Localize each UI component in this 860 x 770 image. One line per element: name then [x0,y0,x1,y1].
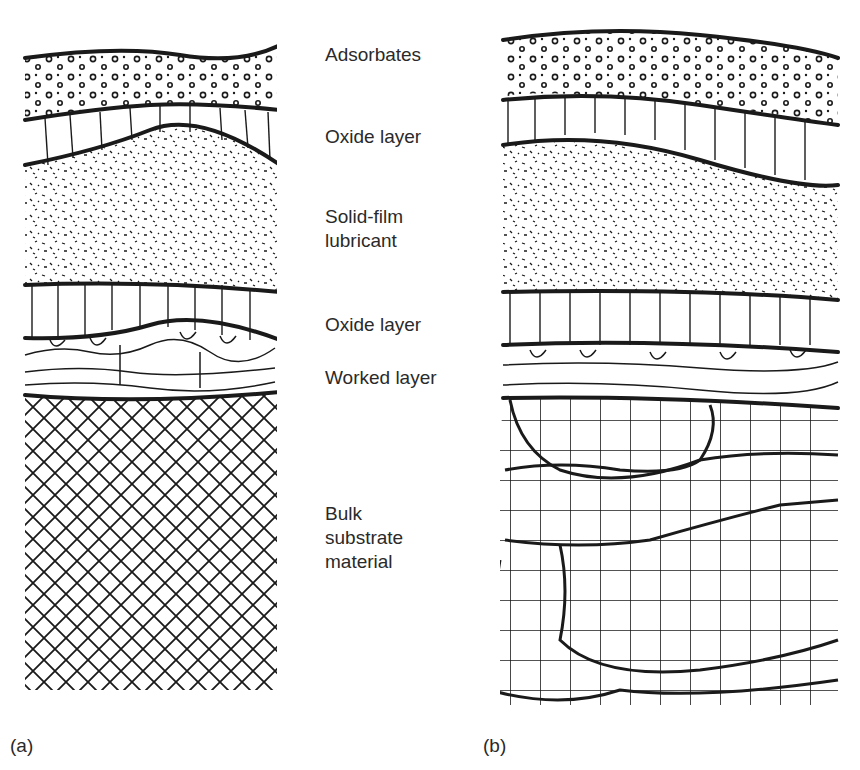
layer-label: Worked layer [325,367,437,389]
layer-label: Adsorbates [325,44,421,66]
layer-label: material [325,551,393,573]
layer-label: Oxide layer [325,126,421,148]
layer-label: Bulk [325,503,362,525]
panel-tag: (a) [10,735,33,757]
layer-label: substrate [325,527,403,549]
panel-tag: (b) [483,735,506,757]
layer-label: lubricant [325,230,397,252]
layer-label: Solid-film [325,206,403,228]
panel-a-diagram [25,45,280,690]
layer-label: Oxide layer [325,314,421,336]
panel-b-diagram [485,31,838,705]
